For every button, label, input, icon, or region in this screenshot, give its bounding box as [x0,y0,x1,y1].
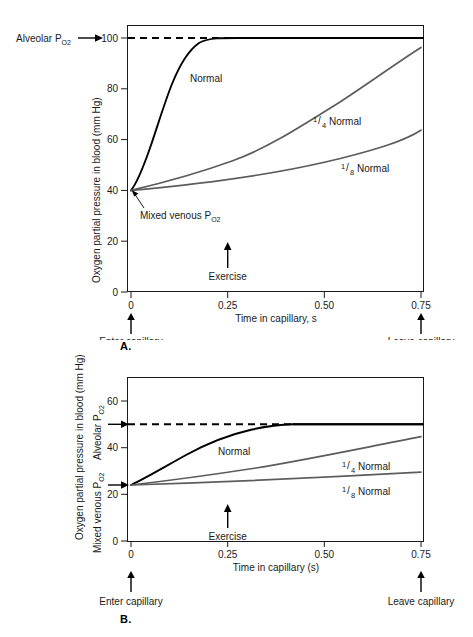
x-tick-label-a-0: 0 [128,300,134,311]
svg-text:8: 8 [350,168,354,177]
y-tick-label-b-20: 20 [107,489,119,500]
y-tick-label-a-0: 0 [112,287,118,298]
plot-frame-a [128,26,424,292]
y-tick-label-a-80: 80 [107,83,119,94]
svg-text:Normal: Normal [329,116,361,127]
plot-frame-b [128,378,424,542]
mixed-venous-po2-label-a: Mixed venous PO2 [140,210,221,223]
svg-text:/: / [347,485,350,496]
svg-text:1: 1 [313,115,317,124]
panel-b-chart: 60 40 20 0 Oxygen partial pressure in bl… [0,340,473,637]
x-tick-label-b-050: 0.50 [315,549,335,560]
y-axis-title-a: Oxygen partial pressure in blood (mm Hg) [91,97,102,283]
mixed-venous-po2-label-b: Mixed venous PO2 [92,472,105,553]
y-tick-label-b-60: 60 [107,396,119,407]
leave-capillary-arrow-a [417,313,425,334]
curve-label-quarter-normal-b: 1 / 4 Normal [342,460,390,475]
alveolar-po2-pointer-b [108,421,129,429]
y-tick-label-a-40: 40 [107,185,119,196]
y-tick-label-b-40: 40 [107,442,119,453]
y-axis-ticks-a [121,38,128,292]
panel-a: 100 80 60 40 20 0 Oxygen partial pressur… [0,0,473,340]
curve-label-quarter-normal-a: 1 / 4 Normal [313,115,361,130]
leave-capillary-arrow-b [417,571,425,592]
x-axis-title-b: Time in capillary (s) [233,562,319,573]
curve-label-eighth-normal-a: 1 / 8 Normal [341,162,389,177]
enter-capillary-label-b: Enter capillary [99,596,162,607]
curve-label-normal-b: Normal [218,446,250,457]
svg-text:/: / [347,460,350,471]
mixed-venous-po2-pointer-b [108,481,129,489]
svg-text:Normal: Normal [358,461,390,472]
exercise-arrow-b [224,504,232,528]
y-tick-label-a-20: 20 [107,236,119,247]
panel-a-chart: 100 80 60 40 20 0 Oxygen partial pressur… [0,0,473,340]
alveolar-po2-label-a: Alveolar PO2 [16,33,71,46]
curve-eighth-normal-b [131,472,421,485]
x-axis-title-a: Time in capillary, s [235,313,317,324]
curve-eighth-normal-a [131,130,421,190]
y-tick-label-a-60: 60 [107,134,119,145]
x-axis-ticks-a [131,292,421,298]
figure-caption-fragment [18,629,458,637]
x-tick-label-b-075: 0.75 [411,549,431,560]
x-tick-label-a-050: 0.50 [315,300,335,311]
enter-capillary-arrow-a [127,313,135,334]
curve-label-normal-a: Normal [190,73,222,84]
y-axis-title-b: Oxygen partial pressure in blood (mm Hg) [74,354,85,540]
figure-root: 100 80 60 40 20 0 Oxygen partial pressur… [0,0,473,637]
x-tick-label-a-075: 0.75 [411,300,431,311]
y-tick-label-b-0: 0 [112,536,118,547]
enter-capillary-arrow-b [127,571,135,592]
alveolar-po2-label-b: Alveolar PO2 [92,405,105,460]
x-tick-label-a-025: 0.25 [218,300,238,311]
svg-text:4: 4 [322,121,326,130]
panel-b: 60 40 20 0 Oxygen partial pressure in bl… [0,340,473,637]
leave-capillary-label-b: Leave capillary [388,596,455,607]
alveolar-po2-pointer-a [78,34,103,42]
svg-text:Normal: Normal [358,486,390,497]
exercise-label-a: Exercise [209,271,248,282]
exercise-arrow-a [224,242,232,268]
svg-text:8: 8 [351,491,355,500]
curve-normal-b [131,424,423,485]
svg-text:1: 1 [342,460,346,469]
svg-text:1: 1 [342,485,346,494]
svg-text:4: 4 [351,466,355,475]
x-tick-label-b-025: 0.25 [218,549,238,560]
mixed-venous-po2-pointer-a [132,190,145,208]
svg-text:/: / [318,115,321,126]
svg-text:/: / [346,162,349,173]
svg-text:Normal: Normal [357,163,389,174]
curve-label-eighth-normal-b: 1 / 8 Normal [342,485,390,500]
y-tick-label-a-100: 100 [101,33,118,44]
x-tick-label-b-0: 0 [128,549,134,560]
svg-text:1: 1 [341,162,345,171]
panel-b-letter: B. [120,613,131,625]
